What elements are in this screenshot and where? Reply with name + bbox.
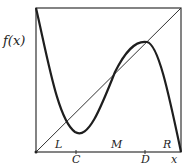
identity-diagonal [36,8,181,152]
x-axis-label: x [171,153,178,166]
y-axis-label: f(x) [2,33,25,48]
point-label-d: D [140,153,150,166]
point-label-r: R [162,138,171,151]
point-label-l: L [54,138,62,151]
point-label-c: C [72,153,81,166]
point-label-m: M [110,138,123,151]
origin-dot [35,151,38,154]
diagram-canvas: f(x) L C M D R x [0,0,190,167]
